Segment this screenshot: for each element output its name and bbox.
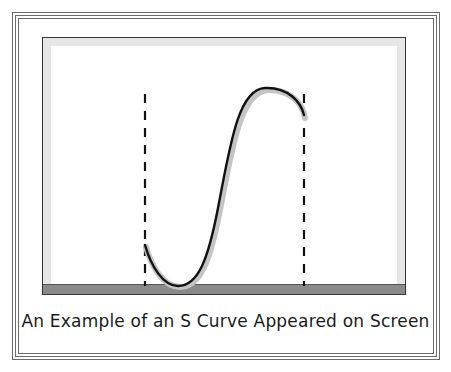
s-curve-shadow — [146, 90, 305, 287]
figure-caption: An Example of an S Curve Appeared on Scr… — [0, 311, 451, 331]
